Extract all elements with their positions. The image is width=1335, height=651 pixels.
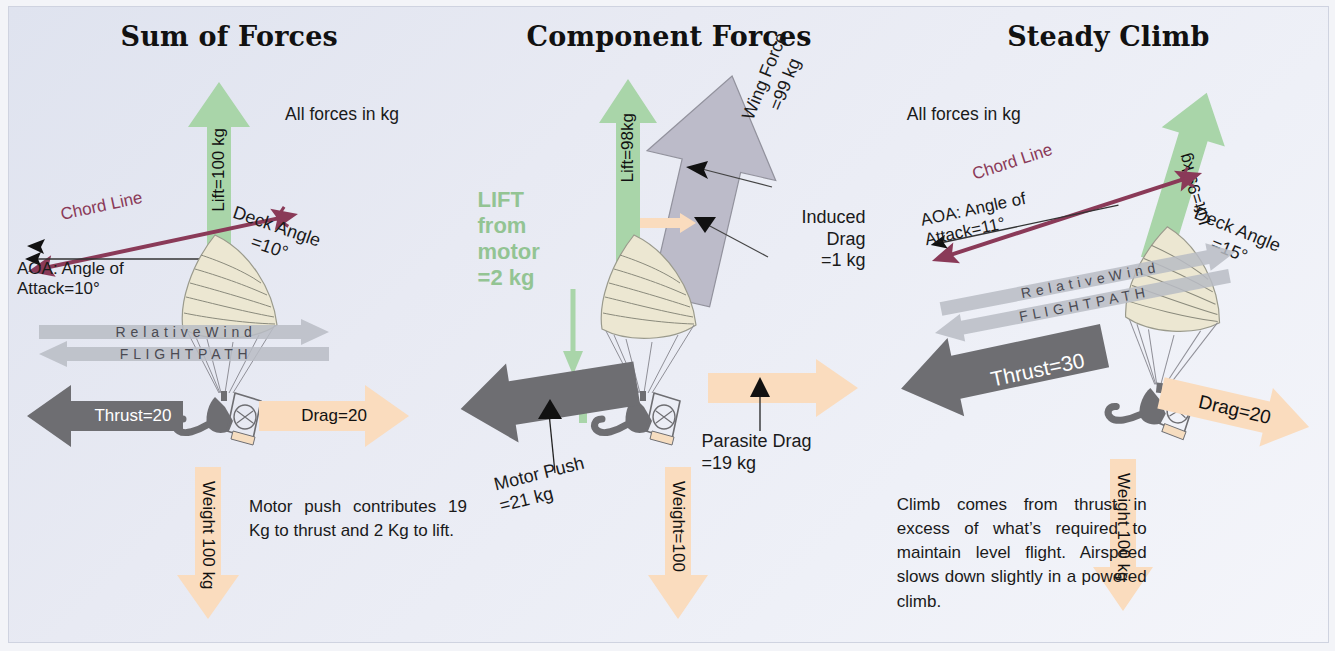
panel-sum-of-forces: Sum of Forces All forces in kg Lift=100 … <box>9 7 450 642</box>
diagram-canvas: Sum of Forces All forces in kg Lift=100 … <box>8 6 1329 643</box>
parasite-drag-label-comp: Parasite Drag =19 kg <box>702 431 812 474</box>
units-note-right: All forces in kg <box>899 103 1029 125</box>
aoa-label-sum: AOA: Angle of Attack=10° <box>17 259 124 300</box>
leader-parasite-drag-comp <box>750 377 770 433</box>
caption-sum-of-forces: Motor push con­tributes 19 Kg to thrust … <box>249 495 467 543</box>
induced-drag-label-comp: Induced Drag =1 kg <box>756 207 866 272</box>
arrow-weight-comp: Weight=100 <box>648 467 708 619</box>
wing-canopy <box>601 235 696 338</box>
panel-steady-climb: Steady Climb All forces in kg Lift=99 kg <box>889 7 1328 642</box>
panel-title-sum-of-forces: Sum of Forces <box>9 21 450 52</box>
arrow-weight-sum: Weight 100 kg <box>177 467 239 619</box>
caption-steady-climb: Climb comes from thrust in excess of wha… <box>897 493 1147 614</box>
arrow-drag-sum: Drag=20 <box>259 385 409 447</box>
figure-frame: Sum of Forces All forces in kg Lift=100 … <box>0 0 1335 651</box>
units-note-left: All forces in kg <box>277 103 407 125</box>
panel-title-component-forces: Component Forces <box>450 21 889 52</box>
pilot-and-harness <box>176 391 261 445</box>
panel-title-steady-climb: Steady Climb <box>889 21 1328 52</box>
arrow-parasite-drag-comp <box>708 359 858 417</box>
motor-push-label-comp: Motor Push =21 kg <box>492 453 592 517</box>
leader-wing-force-comp <box>686 157 796 207</box>
arrow-flight-path-sum: F L I G H T P A T H <box>39 341 329 367</box>
arrow-thrust-climb: Thrust=30 <box>899 325 1109 411</box>
arrow-thrust-sum: Thrust=20 <box>27 385 183 447</box>
arrow-drag-climb: Drag=20 <box>1157 375 1313 445</box>
panel-component-forces: Component Forces Lift=98kg <box>450 7 889 642</box>
